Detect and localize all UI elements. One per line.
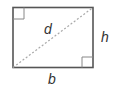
diagonal-label: d [44,22,52,36]
right-angle-marker-bottom-right [82,57,93,68]
diagonal-line [13,8,93,68]
height-label: h [101,30,109,44]
rectangle-diagram [0,0,113,89]
base-label: b [48,72,56,86]
right-angle-marker-top-left [13,8,24,20]
